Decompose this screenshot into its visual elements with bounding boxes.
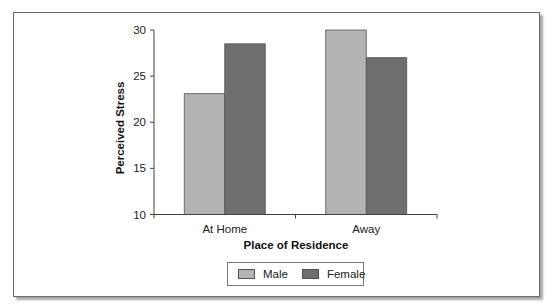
legend-item-female: Female: [302, 268, 365, 280]
y-tick-label: 20: [133, 116, 146, 128]
y-tick-label: 15: [133, 162, 146, 174]
bars: [184, 30, 407, 215]
legend-label-male: Male: [263, 268, 288, 280]
y-tick-label: 10: [133, 209, 146, 221]
x-category-label: At Home: [202, 223, 247, 235]
y-axis-title: Perceived Stress: [114, 82, 126, 175]
bar-chart: 1015202530 At HomeAway Perceived Stress …: [0, 0, 553, 305]
legend-swatch-female: [302, 269, 319, 279]
bar-female-at-home: [225, 44, 266, 215]
x-category-label: Away: [352, 223, 380, 235]
bar-female-away: [366, 58, 407, 215]
y-tick-label: 30: [133, 24, 146, 36]
legend-item-male: Male: [238, 268, 288, 280]
legend: Male Female: [227, 262, 364, 286]
x-axis: At HomeAway: [154, 215, 437, 235]
bar-male-at-home: [184, 94, 225, 215]
x-axis-title: Place of Residence: [244, 239, 349, 251]
legend-label-female: Female: [327, 268, 365, 280]
legend-swatch-male: [238, 269, 255, 279]
bar-male-away: [326, 30, 367, 215]
y-tick-label: 25: [133, 70, 146, 82]
y-axis: 1015202530: [133, 24, 154, 221]
